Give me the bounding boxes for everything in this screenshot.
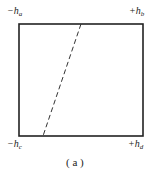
corner-label-bottom-left: −hc <box>7 139 22 151</box>
figure-caption: ( a ) <box>66 157 84 168</box>
corner-label-top-right: +hb <box>129 6 144 18</box>
corner-label-top-left: −ha <box>7 6 22 18</box>
corner-label-bottom-right: +hd <box>128 139 143 151</box>
dashed-divider-line <box>43 24 81 136</box>
boundary-rectangle <box>19 24 143 136</box>
